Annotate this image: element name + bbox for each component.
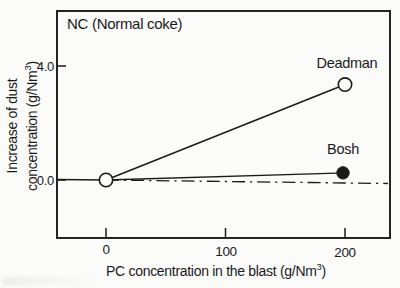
y-axis-label: Increase of dust concentration (g/Nm3) — [4, 1, 38, 251]
scan-artifact — [2, 277, 102, 286]
figure-chart: NC (Normal coke) 4.0 0.0 Increase of dus… — [0, 0, 400, 288]
series-label-bosh: Bosh — [303, 141, 383, 157]
x-tick-label-100: 100 — [203, 244, 249, 259]
x-tick-label-0: 0 — [91, 242, 121, 257]
chart-title: NC (Normal coke) — [67, 15, 182, 32]
y-axis-label-line1: Increase of dust — [4, 1, 20, 251]
x-axis-label-text: PC concentration in the blast (g/Nm — [106, 263, 317, 279]
x-axis-label-close: ) — [322, 263, 326, 279]
y-axis-label-line2: concentration (g/Nm3) — [20, 1, 40, 251]
x-tick-label-200: 200 — [322, 245, 368, 260]
y-axis-label-line2-close: ) — [24, 61, 40, 65]
series-label-deadman: Deadman — [307, 55, 387, 71]
y-axis-label-line2-text: concentration (g/Nm — [24, 71, 40, 191]
y-axis-label-superscript: 3 — [22, 66, 33, 71]
x-axis-label: PC concentration in the blast (g/Nm3) — [60, 261, 372, 279]
